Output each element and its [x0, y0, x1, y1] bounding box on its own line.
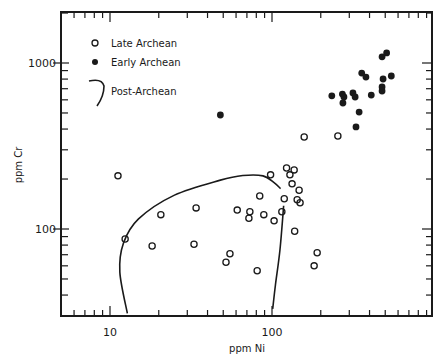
y-axis-label: ppm Cr [13, 146, 24, 184]
late-archean-point [292, 228, 298, 234]
late-archean-point [311, 263, 317, 269]
early-archean-point [217, 112, 224, 119]
late-archean-point [254, 268, 260, 274]
late-archean-point [227, 251, 233, 257]
late-archean-point [279, 209, 285, 215]
early-archean-point [363, 74, 370, 81]
post-archean-curve [120, 175, 284, 313]
late-archean-point [223, 259, 229, 265]
late-archean-point [296, 187, 302, 193]
late-archean-point [234, 207, 240, 213]
early-archean-point [383, 50, 390, 57]
scatter-chart: 10 100 100 1000 ppm Ni ppm Cr Late Arche… [0, 0, 441, 360]
late-archean-point [246, 215, 252, 221]
axis-ticks [53, 12, 432, 316]
late-archean-point [193, 205, 199, 211]
late-archean-point [115, 173, 121, 179]
early-archean-point [340, 100, 347, 107]
early-archean-point [388, 73, 395, 80]
data-points [115, 50, 395, 274]
early-archean-point [379, 88, 386, 95]
late-archean-point [301, 134, 307, 140]
late-archean-point [291, 167, 297, 173]
late-archean-point [257, 193, 263, 199]
late-archean-point [261, 212, 267, 218]
early-archean-point [368, 92, 375, 99]
late-archean-point [335, 133, 341, 139]
y-tick-label-1000: 1000 [28, 57, 56, 70]
legend: Late Archean Early Archean Post-Archean [89, 38, 181, 106]
late-archean-point [283, 165, 289, 171]
late-archean-point [281, 196, 287, 202]
early-archean-point [353, 124, 360, 131]
early-archean-point [356, 109, 363, 116]
late-archean-point [314, 250, 320, 256]
filled-circle-icon [92, 59, 98, 65]
early-archean-point [352, 94, 359, 101]
late-archean-point [267, 172, 273, 178]
x-tick-label-100: 100 [262, 326, 283, 339]
late-archean-point [247, 209, 253, 215]
early-archean-point [328, 92, 335, 99]
early-archean-point [380, 76, 387, 83]
legend-post-archean: Post-Archean [111, 86, 177, 97]
late-archean-point [289, 181, 295, 187]
early-archean-point [341, 94, 348, 101]
x-axis-label: ppm Ni [229, 343, 265, 354]
late-archean-point [191, 241, 197, 247]
late-archean-point [158, 212, 164, 218]
late-archean-point [271, 218, 277, 224]
y-tick-label-100: 100 [35, 223, 56, 236]
open-circle-icon [92, 40, 98, 46]
curve-icon [89, 80, 104, 106]
legend-late-archean: Late Archean [111, 38, 177, 49]
legend-early-archean: Early Archean [111, 57, 181, 68]
x-tick-label-10: 10 [103, 326, 117, 339]
late-archean-point [149, 243, 155, 249]
